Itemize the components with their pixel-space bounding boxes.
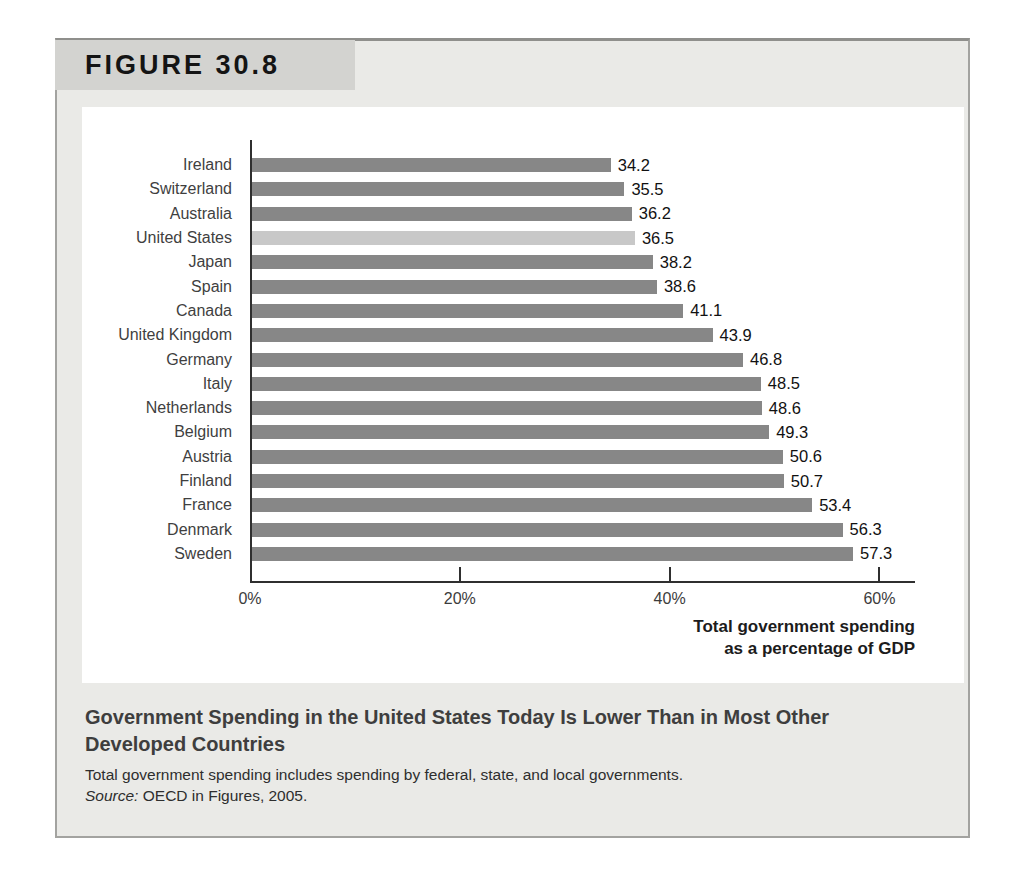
chart-row-italy: Italy48.5 xyxy=(82,372,964,396)
bar-value-label: 53.4 xyxy=(819,496,851,515)
x-tick-mark xyxy=(669,567,671,581)
bar xyxy=(252,158,611,172)
bar-track: 38.2 xyxy=(242,253,964,272)
bar-rows: Ireland34.2Switzerland35.5Australia36.2U… xyxy=(82,153,964,566)
chart-row-finland: Finland50.7 xyxy=(82,469,964,493)
country-label: Austria xyxy=(82,448,242,466)
bar-track: 48.5 xyxy=(242,374,964,393)
bar-track: 57.3 xyxy=(242,544,964,563)
caption-note: Total government spending includes spend… xyxy=(85,764,945,785)
bar xyxy=(252,353,743,367)
country-label: Australia xyxy=(82,205,242,223)
bar-value-label: 48.5 xyxy=(768,374,800,393)
country-label: Germany xyxy=(82,351,242,369)
source-value: OECD in Figures, 2005. xyxy=(143,787,308,804)
bar xyxy=(252,304,683,318)
bar-value-label: 38.6 xyxy=(664,277,696,296)
chart-row-france: France53.4 xyxy=(82,493,964,517)
bar-track: 34.2 xyxy=(242,156,964,175)
bar-track: 50.6 xyxy=(242,447,964,466)
bar-value-label: 46.8 xyxy=(750,350,782,369)
figure-panel: FIGURE 30.8 Ireland34.2Switzerland35.5Au… xyxy=(55,38,970,838)
bar-track: 36.5 xyxy=(242,229,964,248)
bar xyxy=(252,280,657,294)
bar-highlighted xyxy=(252,231,635,245)
bar-value-label: 56.3 xyxy=(850,520,882,539)
bar-track: 38.6 xyxy=(242,277,964,296)
bar-value-label: 43.9 xyxy=(720,326,752,345)
country-label: Denmark xyxy=(82,521,242,539)
chart-row-united-states: United States36.5 xyxy=(82,226,964,250)
x-axis-label: Total government spending as a percentag… xyxy=(250,616,915,660)
chart-row-canada: Canada41.1 xyxy=(82,299,964,323)
country-label: Italy xyxy=(82,375,242,393)
bar xyxy=(252,474,784,488)
bar xyxy=(252,182,624,196)
x-axis-line xyxy=(250,581,915,583)
country-label: United States xyxy=(82,229,242,247)
x-tick-label: 20% xyxy=(428,590,492,608)
bar-value-label: 50.6 xyxy=(790,447,822,466)
country-label: Sweden xyxy=(82,545,242,563)
bar-value-label: 49.3 xyxy=(776,423,808,442)
bar-track: 56.3 xyxy=(242,520,964,539)
country-label: Netherlands xyxy=(82,399,242,417)
chart-row-sweden: Sweden57.3 xyxy=(82,542,964,566)
bar-track: 53.4 xyxy=(242,496,964,515)
bar xyxy=(252,523,843,537)
bar xyxy=(252,328,713,342)
bar-value-label: 36.2 xyxy=(639,204,671,223)
caption-source: Source: OECD in Figures, 2005. xyxy=(85,785,945,806)
chart-row-belgium: Belgium49.3 xyxy=(82,420,964,444)
country-label: Belgium xyxy=(82,423,242,441)
country-label: Ireland xyxy=(82,156,242,174)
bar xyxy=(252,207,632,221)
bar-track: 36.2 xyxy=(242,204,964,223)
bar-track: 49.3 xyxy=(242,423,964,442)
bar-track: 35.5 xyxy=(242,180,964,199)
bar xyxy=(252,498,812,512)
chart-row-austria: Austria50.6 xyxy=(82,445,964,469)
x-tick-mark xyxy=(459,567,461,581)
bar-track: 46.8 xyxy=(242,350,964,369)
bar-track: 48.6 xyxy=(242,399,964,418)
x-axis-label-line2: as a percentage of GDP xyxy=(250,638,915,660)
bar-value-label: 36.5 xyxy=(642,229,674,248)
chart-box: Ireland34.2Switzerland35.5Australia36.2U… xyxy=(82,107,964,683)
chart-row-japan: Japan38.2 xyxy=(82,250,964,274)
bar xyxy=(252,401,762,415)
chart-row-united-kingdom: United Kingdom43.9 xyxy=(82,323,964,347)
chart-row-australia: Australia36.2 xyxy=(82,202,964,226)
bar-value-label: 50.7 xyxy=(791,472,823,491)
chart-row-netherlands: Netherlands48.6 xyxy=(82,396,964,420)
bar-value-label: 48.6 xyxy=(769,399,801,418)
bar-value-label: 38.2 xyxy=(660,253,692,272)
bar-chart: Ireland34.2Switzerland35.5Australia36.2U… xyxy=(82,107,964,683)
bar-track: 41.1 xyxy=(242,301,964,320)
bar xyxy=(252,547,853,561)
country-label: Canada xyxy=(82,302,242,320)
x-tick-mark xyxy=(878,567,880,581)
x-axis-label-line1: Total government spending xyxy=(250,616,915,638)
chart-row-denmark: Denmark56.3 xyxy=(82,517,964,541)
bar-track: 43.9 xyxy=(242,326,964,345)
source-label: Source: xyxy=(85,787,138,804)
chart-row-germany: Germany46.8 xyxy=(82,347,964,371)
chart-row-switzerland: Switzerland35.5 xyxy=(82,177,964,201)
caption-title: Government Spending in the United States… xyxy=(85,704,930,758)
country-label: United Kingdom xyxy=(82,326,242,344)
x-tick-label: 0% xyxy=(218,590,282,608)
x-tick-label: 40% xyxy=(638,590,702,608)
bar xyxy=(252,450,783,464)
bar xyxy=(252,377,761,391)
bar-value-label: 34.2 xyxy=(618,156,650,175)
bar-value-label: 41.1 xyxy=(690,301,722,320)
country-label: Finland xyxy=(82,472,242,490)
figure-header-bar: FIGURE 30.8 xyxy=(55,40,355,90)
x-tick-label: 60% xyxy=(847,590,911,608)
country-label: Spain xyxy=(82,278,242,296)
country-label: Switzerland xyxy=(82,180,242,198)
bar-value-label: 35.5 xyxy=(631,180,663,199)
figure-label: FIGURE 30.8 xyxy=(85,50,280,81)
bar-value-label: 57.3 xyxy=(860,544,892,563)
